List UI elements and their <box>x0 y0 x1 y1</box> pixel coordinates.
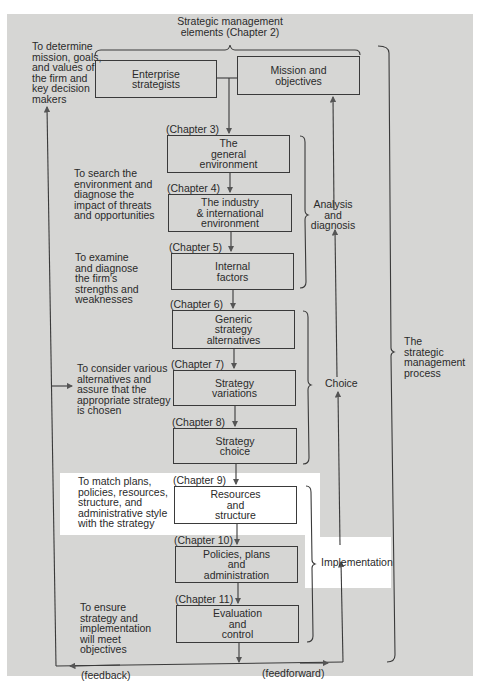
purpose-consider: To consider various alternatives and ass… <box>77 363 170 416</box>
implementation-phase-label: Implementation <box>321 557 393 568</box>
purpose-ensure: To ensure strategy and implementation wi… <box>80 602 151 655</box>
purpose-match: To match plans, policies, resources, str… <box>78 476 168 529</box>
chapter-5-label: (Chapter 5) <box>169 241 222 253</box>
strategic-elements-title: Strategic management elements (Chapter 2… <box>175 16 285 37</box>
mission-objectives-box: Mission and objectives <box>237 56 360 95</box>
evaluation-control-box: Evaluation and control <box>176 605 299 643</box>
chapter-11-label: (Chapter 11) <box>175 593 233 605</box>
process-label: The strategic management process <box>404 336 465 378</box>
chapter-7-label: (Chapter 7) <box>171 358 224 370</box>
resources-structure-box: Resources and structure <box>174 486 297 524</box>
choice-phase-label: Choice <box>325 378 358 389</box>
chapter-10-label: (Chapter 10) <box>174 534 233 546</box>
purpose-examine: To examine and diagnose the firm's stren… <box>75 252 139 305</box>
cropped-caption-fragment <box>40 684 190 690</box>
internal-factors-box: Internal factors <box>171 253 294 290</box>
strategy-variations-box: Strategy variations <box>173 370 296 406</box>
chapter-3-label: (Chapter 3) <box>166 123 219 135</box>
feedback-label: (feedback) <box>81 669 131 681</box>
generic-strategy-box: Generic strategy alternatives <box>172 310 295 349</box>
feedforward-label: (feedforward) <box>262 667 324 679</box>
enterprise-strategists-box: Enterprise strategists <box>95 60 217 98</box>
general-environment-box: The general environment <box>167 135 290 173</box>
policies-plans-box: Policies, plans and administration <box>175 546 298 583</box>
chapter-6-label: (Chapter 6) <box>170 298 223 310</box>
chapter-8-label: (Chapter 8) <box>172 416 225 428</box>
industry-environment-box: The industry & international environment <box>168 194 292 232</box>
purpose-search: To search the environment and diagnose t… <box>74 168 155 221</box>
analysis-phase-label: Analysis and diagnosis <box>310 199 356 231</box>
chapter-4-label: (Chapter 4) <box>167 182 220 194</box>
chapter-9-label: (Chapter 9) <box>173 474 226 486</box>
purpose-determine: To determine mission, goals, and values … <box>32 41 101 105</box>
strategy-choice-box: Strategy choice <box>173 428 297 464</box>
